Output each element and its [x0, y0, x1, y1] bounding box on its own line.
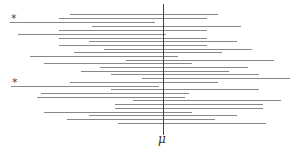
miss-marker-icon: *	[12, 76, 18, 89]
miss-marker-icon: *	[11, 12, 17, 25]
mu-label: μ	[158, 132, 166, 146]
confidence-interval-diagram	[0, 0, 297, 161]
